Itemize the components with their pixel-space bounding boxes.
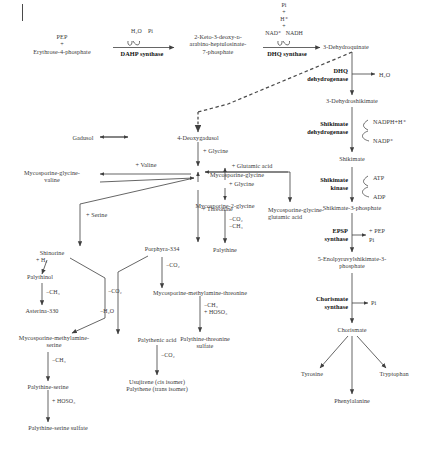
hoso3-add-label: + HOSO₃	[52, 398, 75, 405]
chorismate-synthase-enzyme: Chorismate synthase	[316, 295, 348, 310]
dhq-synthase-cofactors: Pi + H⁺ +	[254, 2, 314, 30]
dahp-cofactors: H₂O Pi	[107, 28, 177, 35]
glutamic-add-label: + Glutamic acid	[217, 162, 287, 169]
h2-add-label: + H₂	[36, 257, 47, 264]
pi-output-epsp: Pi	[369, 236, 374, 243]
palythine-serine-sulfate-label: Palythine-serine sulfate	[3, 424, 113, 431]
chorismate-label: Chorismate	[307, 326, 397, 333]
usujirene-palythene-label: Usujirene (cis isomer) Palythene (trans …	[92, 378, 222, 393]
co2-loss-serine-label: −CO₂	[108, 288, 122, 295]
deoxygadusol-label: 4-Deoxygadusol	[153, 134, 243, 141]
valine-add-label: + Valine	[121, 161, 171, 168]
water-output-1: H₂O	[379, 71, 390, 78]
threonine-sulfate-loss-label: −CH₃ + HOSO₃	[204, 302, 227, 316]
pi-output-chorismate: Pi	[371, 299, 376, 306]
ch3-loss-label: −CH₃	[46, 289, 60, 296]
dhq-nad-nadh: NAD⁺ NADH	[244, 30, 324, 37]
atp-input: ATP	[373, 174, 384, 181]
co2-loss-threonine-label: −CO₂	[166, 262, 180, 269]
phenylalanine-label: Phenylalanine	[312, 397, 392, 404]
threonine-add-label: + Threonine	[202, 205, 233, 212]
shinorine-label: Shinorine	[22, 249, 82, 256]
mycosporine-glycine-valine-label: Mycosporine-glycine- valine	[2, 169, 102, 184]
epsp-label: 5-Enolpyruvylshikimate-3- phosphate	[292, 255, 412, 270]
nadp-output: NADP⁺	[373, 137, 393, 144]
tyrosine-label: Tyrosine	[282, 370, 342, 377]
h2o-loss-palythenic-label: −H₂O	[100, 308, 114, 315]
ch3-loss-2-label: −CH₃	[52, 357, 66, 364]
page-edge-mark	[22, 4, 23, 21]
glycine-add-2-label: + Glycine	[229, 180, 254, 187]
palythine-label: Palythine	[195, 246, 255, 253]
mycosporine-methylamine-threonine-label: Mycosporine-methylamine-threonine	[125, 289, 275, 296]
shikimate-dehydrogenase-enzyme: Shikimate dehydrogenase	[307, 120, 348, 135]
asterina-330-label: Asterina-330	[7, 307, 77, 314]
pathway-diagram: PEP + Erythrose-4-phosphate H₂O Pi DAHP …	[0, 0, 439, 450]
nadph-input: NADPH+H⁺	[373, 118, 406, 125]
porphyra-334-label: Porphyra-334	[122, 245, 202, 252]
tryptophan-label: Tryptophan	[359, 370, 429, 377]
palythenic-acid-label: Palythenic acid	[117, 336, 197, 343]
shikimate-kinase-enzyme: Shikimate kinase	[320, 176, 348, 191]
palythine-loss-label: −CO₂ −CH₃	[229, 216, 243, 230]
epsp-synthase-enzyme: EPSP synthase	[325, 227, 349, 242]
dehydroquinate-label: 3-Dehydroquinate	[323, 43, 369, 50]
mycosporine-glycine-label: Mycosporine-glycine	[187, 171, 287, 178]
glycine-add-1-label: + Glycine	[203, 147, 228, 154]
palythine-serine-label: Palythine-serine	[3, 383, 93, 390]
dhq-synthase-enzyme: DHQ synthase	[242, 50, 332, 58]
gadusol-label: Gadusol	[53, 134, 113, 141]
dhq-dehydrogenase-enzyme: DHQ dehydrogenase	[307, 67, 348, 82]
adp-output: ADP	[373, 193, 386, 200]
serine-add-label: + Serine	[86, 211, 107, 218]
pep-input: + PEP	[369, 227, 385, 234]
mycosporine-methylamine-serine-label: Mycosporine-methylamine- serine	[0, 334, 114, 349]
shikimate-label: Shikimate	[307, 155, 397, 162]
dehydroshikimate-label: 3-Dehydroshikimate	[297, 97, 407, 104]
palythinol-label: Palythinol	[10, 273, 70, 280]
co2-loss-palythenic-label: −CO₂	[161, 352, 175, 359]
